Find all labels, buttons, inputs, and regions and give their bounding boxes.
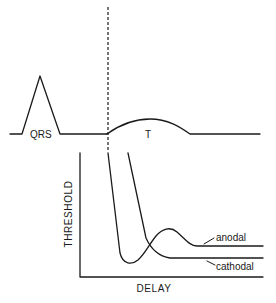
t-wave-label: T (145, 129, 151, 140)
anodal-leader-line (204, 238, 214, 244)
anodal-label: anodal (216, 232, 246, 243)
cathodal-leader-line (207, 261, 215, 265)
threshold-plot: anodal cathodal THRESHOLD DELAY (63, 153, 263, 294)
x-axis-label: DELAY (136, 283, 171, 294)
ecg-baseline-and-qrs (10, 76, 107, 134)
cathodal-label: cathodal (216, 261, 254, 272)
ecg-trace: QRS T (10, 76, 260, 140)
ecg-t-wave (107, 119, 260, 134)
threshold-delay-diagram: QRS T anodal cathodal THRESHOLD DELAY (0, 0, 276, 303)
qrs-label: QRS (30, 129, 52, 140)
y-axis-label: THRESHOLD (63, 180, 74, 247)
